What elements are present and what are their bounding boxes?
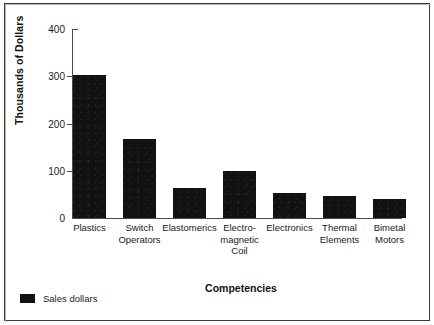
y-axis-label-100: 100 <box>48 165 65 176</box>
y-axis-label-200: 200 <box>48 118 65 129</box>
bar-bimetal-motors <box>373 199 406 218</box>
bar-switch-operators <box>123 139 156 218</box>
chart-legend: Sales dollars <box>20 293 97 304</box>
bar-elastomerics <box>173 188 206 218</box>
x-axis-line <box>72 218 402 219</box>
y-axis-title: Thousands of Dollars <box>13 16 25 125</box>
bar-electromagnetic-coil <box>223 171 256 218</box>
legend-label-sales-dollars: Sales dollars <box>43 293 97 304</box>
bar-thermal-elements <box>323 196 356 218</box>
plot-area: 400 300 200 100 0 Plastics Switch Operat… <box>72 29 410 218</box>
y-axis-label-400: 400 <box>48 24 65 35</box>
bar-plastics <box>73 75 106 218</box>
x-axis-label-bimetal-motors: Bimetal Motors <box>355 222 425 245</box>
y-axis-label-300: 300 <box>48 71 65 82</box>
chart-figure: Thousands of Dollars 400 300 200 100 0 P… <box>0 0 434 325</box>
x-axis-title: Competencies <box>72 282 410 294</box>
legend-swatch-sales-dollars <box>20 294 35 303</box>
bar-electronics <box>273 193 306 219</box>
y-axis-tick-400 <box>72 29 78 30</box>
